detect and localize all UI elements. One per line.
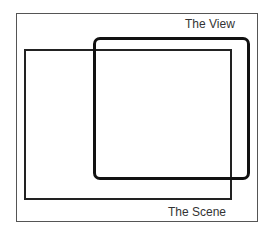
view-label: The View <box>185 17 235 31</box>
scene-label: The Scene <box>168 205 226 219</box>
view-rectangle <box>93 37 250 180</box>
